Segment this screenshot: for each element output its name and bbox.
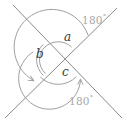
- geometry-figure: a b c 180° 180°: [0, 0, 125, 124]
- degree-value-bottom-right: 180: [69, 95, 90, 107]
- degree-label-bottom-right: 180°: [69, 95, 93, 106]
- degree-symbol-top-right: °: [103, 13, 107, 21]
- degree-symbol-bottom-right: °: [90, 94, 94, 102]
- angle-label-c: c: [62, 66, 69, 78]
- degree-label-top-right: 180°: [82, 14, 106, 25]
- angle-label-b: b: [36, 48, 44, 60]
- degree-value-top-right: 180: [82, 14, 103, 26]
- angle-label-a: a: [64, 31, 71, 43]
